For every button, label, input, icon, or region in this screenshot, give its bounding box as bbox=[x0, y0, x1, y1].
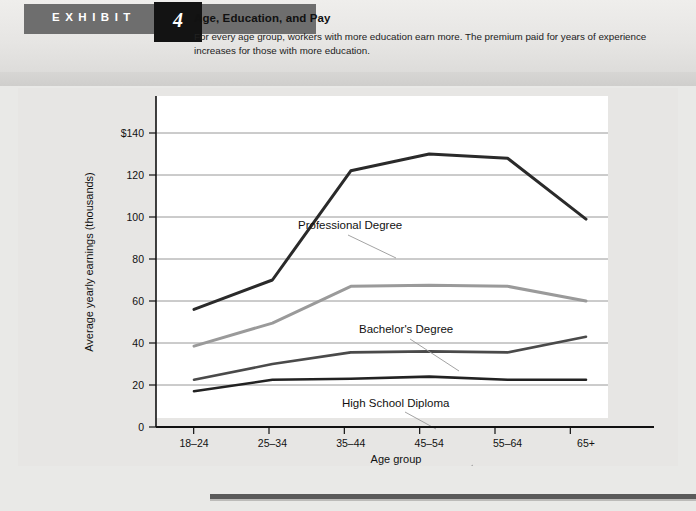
y-axis-tick-label: 20 bbox=[132, 379, 144, 391]
y-axis-tick-label: 60 bbox=[132, 295, 144, 307]
x-axis-tick-label: 18–24 bbox=[179, 437, 208, 449]
y-axis-ticks-group: 020406080100120$140 bbox=[121, 127, 156, 433]
y-axis-title: Average yearly earnings (thousands) bbox=[83, 172, 95, 352]
page-title: Age, Education, and Pay bbox=[194, 12, 331, 24]
chart-card: 020406080100120$140 18–2425–3435–4445–54… bbox=[18, 88, 678, 466]
series-lines-group bbox=[194, 154, 586, 391]
footer-rule-shadow bbox=[210, 499, 696, 501]
x-axis-tick-label: 35–44 bbox=[336, 437, 365, 449]
y-axis-tick-label: 100 bbox=[126, 211, 144, 223]
series-label: Bachelor's Degree bbox=[359, 323, 453, 335]
x-axis-ticks-group: 18–2425–3435–4445–5455–6465+ bbox=[179, 427, 595, 449]
exhibit-subtitle-line2: for those with more education. bbox=[239, 45, 370, 56]
series-leader-line bbox=[448, 465, 473, 466]
x-axis-tick-label: 55–64 bbox=[493, 437, 522, 449]
series-leader-line bbox=[348, 235, 396, 258]
series-labels-group: Professional DegreeBachelor's DegreeHigh… bbox=[298, 219, 498, 466]
series-line bbox=[194, 285, 586, 346]
header-divider-rule bbox=[0, 72, 696, 86]
y-axis-tick-label: 120 bbox=[126, 169, 144, 181]
exhibit-subtitle: For every age group, workers with more e… bbox=[194, 30, 674, 57]
line-chart: 020406080100120$140 18–2425–3435–4445–54… bbox=[18, 88, 678, 466]
series-leader-line bbox=[410, 339, 459, 371]
y-axis-tick-label: 40 bbox=[132, 337, 144, 349]
series-line bbox=[194, 377, 586, 392]
x-axis-tick-label: 25–34 bbox=[258, 437, 287, 449]
series-label: Professional Degree bbox=[298, 219, 402, 231]
x-axis-tick-label: 65+ bbox=[577, 437, 595, 449]
series-label: High School Diploma bbox=[342, 397, 450, 409]
x-axis-title: Age group bbox=[371, 453, 422, 465]
y-axis-tick-label: 0 bbox=[138, 421, 144, 433]
y-axis-tick-label: 80 bbox=[132, 253, 144, 265]
y-axis-tick-label: $140 bbox=[121, 127, 145, 139]
x-axis-tick-label: 45–54 bbox=[415, 437, 444, 449]
gridlines-group bbox=[156, 133, 608, 385]
exhibit-word: EXHIBIT bbox=[52, 11, 136, 23]
